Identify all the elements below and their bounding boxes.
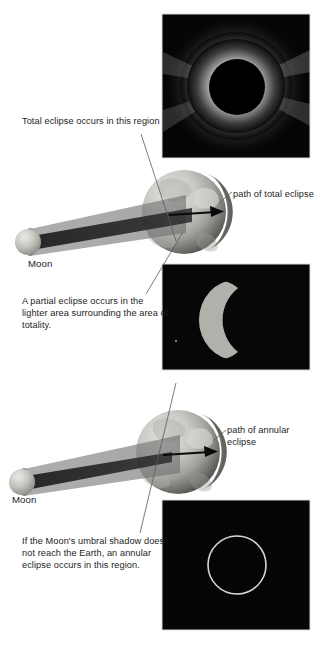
eclipse-figure: Total eclipse occurs in this region A pa…: [0, 0, 319, 645]
caption-annular-eclipse-region: If the Moon's umbral shadow does not rea…: [22, 535, 172, 572]
label-moon-top: Moon: [28, 258, 52, 269]
partial-eclipse-photo: [162, 264, 310, 370]
annular-eclipse-photo: [162, 500, 310, 630]
caption-path-of-annular-eclipse: path of annular eclipse: [227, 424, 317, 448]
total-eclipse-diagram: [15, 170, 233, 256]
label-moon-bottom: Moon: [12, 494, 36, 505]
annular-eclipse-diagram: [9, 410, 227, 496]
moon-sphere-annular: [9, 469, 35, 495]
moon-sphere-total: [15, 229, 41, 255]
caption-total-eclipse-region: Total eclipse occurs in this region: [22, 115, 162, 127]
total-eclipse-corona-photo: [162, 14, 310, 158]
caption-partial-eclipse-region: A partial eclipse occurs in the lighter …: [22, 295, 170, 332]
caption-path-of-total-eclipse: path of total eclipse: [233, 188, 315, 200]
